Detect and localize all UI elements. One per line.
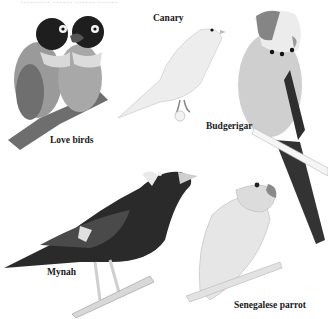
love-birds-illustration [8,16,108,150]
label-budgerigar: Budgerigar [206,121,252,131]
senegalese-parrot-illustration [186,183,282,302]
label-mynah: Mynah [47,267,76,277]
label-love-birds: Love birds [50,135,94,145]
label-canary: Canary [153,13,184,23]
label-senegalese-parrot: Senegalese parrot [234,300,306,310]
canary-illustration [118,28,226,121]
mynah-illustration [4,171,198,318]
